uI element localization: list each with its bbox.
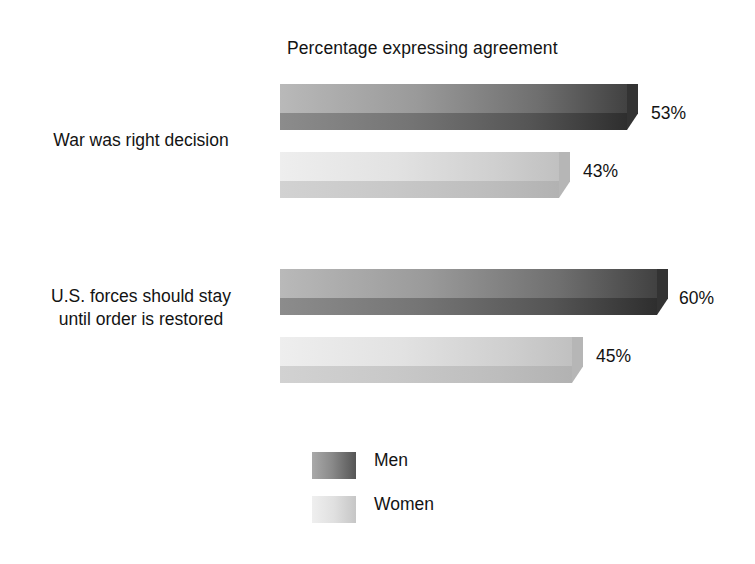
bar-end-cap xyxy=(657,269,668,315)
value-label-men-war-was-right-decision: 53% xyxy=(651,103,686,124)
bar-body xyxy=(280,152,570,198)
legend-swatch-women-icon xyxy=(312,496,356,523)
bar-chart: Percentage expressing agreement War was … xyxy=(0,0,755,564)
bar-women-war-was-right-decision xyxy=(280,152,570,198)
bar-end-cap xyxy=(559,152,570,198)
bar-body xyxy=(280,337,583,383)
bar-top-face xyxy=(280,152,570,181)
bar-body xyxy=(280,269,668,315)
bar-front-face xyxy=(280,113,627,130)
bar-end-cap xyxy=(572,337,583,383)
legend-swatch-men-icon xyxy=(312,452,356,479)
bar-top-face xyxy=(280,84,638,113)
value-label-women-us-forces-should-stay: 45% xyxy=(596,346,631,367)
bar-end-cap xyxy=(627,84,638,130)
category-label-war-was-right-decision: War was right decision xyxy=(10,129,272,152)
bar-front-face xyxy=(280,298,657,315)
bar-women-us-forces-should-stay xyxy=(280,337,583,383)
bar-body xyxy=(280,84,638,130)
value-label-men-us-forces-should-stay: 60% xyxy=(679,288,714,309)
bar-front-face xyxy=(280,366,572,383)
bar-men-us-forces-should-stay xyxy=(280,269,668,315)
legend-label-women: Women xyxy=(374,494,434,515)
category-label-us-forces-should-stay: U.S. forces should stay until order is r… xyxy=(10,285,272,331)
legend-label-men: Men xyxy=(374,450,408,471)
bar-men-war-was-right-decision xyxy=(280,84,638,130)
bar-top-face xyxy=(280,269,668,298)
bar-front-face xyxy=(280,181,559,198)
chart-title: Percentage expressing agreement xyxy=(287,38,558,59)
value-label-women-war-was-right-decision: 43% xyxy=(583,161,618,182)
bar-top-face xyxy=(280,337,583,366)
